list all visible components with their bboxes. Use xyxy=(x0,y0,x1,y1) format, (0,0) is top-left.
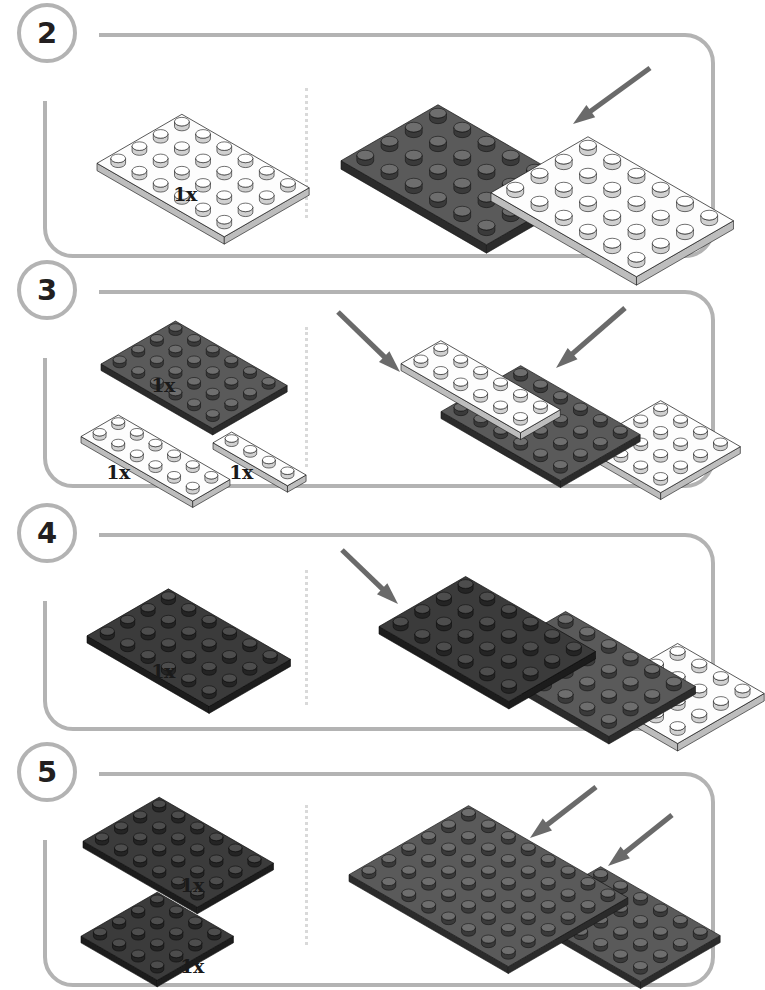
part-quantity-label: 1x xyxy=(165,183,205,205)
part-quantity-label: 1x xyxy=(98,461,138,483)
part-quantity-label: 1x xyxy=(221,461,261,483)
plate-4x6-white xyxy=(96,103,310,245)
part-quantity-label: 1x xyxy=(143,374,183,396)
step-number-badge: 4 xyxy=(17,503,77,563)
plate-2x6-white xyxy=(80,405,231,509)
placement-arrow xyxy=(328,536,412,618)
placement-arrow xyxy=(559,54,664,138)
plate-4x6-black xyxy=(86,578,292,714)
step-number-badge: 3 xyxy=(17,260,77,320)
step-number-badge: 2 xyxy=(17,3,77,63)
parts-assembly-divider xyxy=(305,805,308,945)
placement-arrow-right xyxy=(542,294,639,382)
placement-arrow-left xyxy=(324,298,414,386)
assembly-plate-2x6-white xyxy=(400,330,561,441)
part-quantity-label: 1x xyxy=(172,955,212,977)
step-panel-4: 41x xyxy=(43,533,715,731)
step-panel-3: 31x1x1x xyxy=(43,290,715,488)
assembly-plate-4x6-white xyxy=(490,124,735,286)
step-panel-5: 51x1x xyxy=(43,772,715,987)
parts-assembly-divider xyxy=(305,570,308,705)
step-number-badge: 5 xyxy=(17,742,77,802)
placement-arrow-right xyxy=(594,801,686,880)
step-panel-2: 21x xyxy=(43,33,715,258)
part-quantity-label: 1x xyxy=(143,660,183,682)
